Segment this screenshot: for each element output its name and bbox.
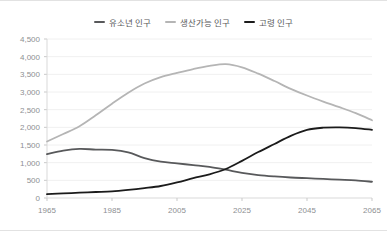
y-tick-label: 3,500 xyxy=(20,70,41,79)
series-line-working-age xyxy=(47,64,372,141)
x-tick-label: 2005 xyxy=(168,206,186,215)
plot-area: 05001,0001,5002,0002,5003,0003,5004,0004… xyxy=(0,1,387,231)
chart-svg: 05001,0001,5002,0002,5003,0003,5004,0004… xyxy=(0,1,387,231)
series-line-elderly xyxy=(47,127,372,194)
y-tick-label: 1,500 xyxy=(20,141,41,150)
y-tick-label: 4,000 xyxy=(20,53,41,62)
population-line-chart: 유소년 인구 생산가능 인구 고령 인구 05001,0001,5002,000… xyxy=(0,0,387,231)
y-tick-label: 1,000 xyxy=(20,159,41,168)
series-line-youth xyxy=(47,149,372,182)
axis-lines xyxy=(44,39,372,201)
y-tick-label: 3,000 xyxy=(20,88,41,97)
x-tick-label: 1965 xyxy=(38,206,56,215)
gridlines xyxy=(47,39,372,180)
x-tick-label: 2045 xyxy=(298,206,316,215)
x-tick-label: 1985 xyxy=(103,206,121,215)
y-tick-label: 4,500 xyxy=(20,35,41,44)
y-tick-label: 500 xyxy=(27,176,41,185)
y-tick-label: 2,500 xyxy=(20,106,41,115)
y-axis-tick-labels: 05001,0001,5002,0002,5003,0003,5004,0004… xyxy=(20,35,41,203)
data-series xyxy=(47,64,372,194)
x-tick-label: 2025 xyxy=(233,206,251,215)
x-tick-label: 2065 xyxy=(363,206,381,215)
y-tick-label: 2,000 xyxy=(20,123,41,132)
y-tick-label: 0 xyxy=(36,194,41,203)
x-axis-tick-labels: 196519852005202520452065 xyxy=(38,206,381,215)
